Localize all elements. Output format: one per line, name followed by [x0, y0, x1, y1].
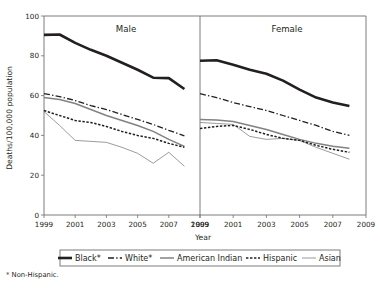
mortality-line-chart: Deaths/100,000 population 02040608010019… — [0, 0, 380, 293]
x-tick-label: 2005 — [290, 220, 308, 229]
legend-label: Asian — [319, 254, 341, 263]
legend-label: White* — [125, 254, 152, 263]
panel-title-female: Female — [271, 24, 302, 34]
legend-item-hispanic[interactable]: Hispanic — [246, 254, 297, 263]
y-tick-label: 100 — [25, 12, 39, 21]
legend-label: American Indian — [177, 254, 242, 263]
legend-item-asian[interactable]: Asian — [302, 254, 341, 263]
y-tick-label: 60 — [30, 91, 40, 100]
plot-frame — [44, 16, 366, 215]
x-tick-label: 1999 — [191, 220, 210, 229]
x-tick-label: 2007 — [160, 220, 178, 229]
x-axis-title: Year — [194, 233, 212, 242]
series-line-asian-male — [44, 112, 184, 167]
series-line-black-male — [44, 35, 184, 90]
series-line-asian-female — [200, 122, 349, 159]
x-tick-label: 2003 — [257, 220, 275, 229]
y-tick-label: 40 — [30, 131, 40, 140]
footnote: * Non-Hispanic. — [6, 271, 59, 279]
y-axis-title: Deaths/100,000 population — [5, 66, 14, 170]
legend-item-american-indian[interactable]: American Indian — [160, 254, 242, 263]
series-line-black-female — [200, 60, 349, 106]
x-tick-label: 1999 — [35, 220, 54, 229]
y-tick-label: 0 — [34, 211, 39, 220]
x-tick-label: 2009 — [357, 220, 376, 229]
y-tick-label: 20 — [30, 171, 40, 180]
y-tick-label: 80 — [30, 51, 40, 60]
figure-container: Deaths/100,000 population 02040608010019… — [0, 0, 380, 293]
legend-label: Black* — [75, 254, 101, 263]
legend-label: Hispanic — [263, 254, 297, 263]
series-line-american-indian-male — [44, 98, 184, 147]
series-line-hispanic-male — [44, 111, 184, 148]
x-tick-label: 2001 — [66, 220, 84, 229]
chart-legend: Black*White*American IndianHispanicAsian — [58, 250, 341, 266]
x-tick-label: 2007 — [324, 220, 342, 229]
series-layer — [44, 35, 349, 167]
x-tick-label: 2003 — [97, 220, 115, 229]
legend-item-white[interactable]: White* — [108, 254, 152, 263]
x-tick-label: 2001 — [224, 220, 242, 229]
legend-item-black[interactable]: Black* — [58, 254, 101, 263]
x-tick-label: 2005 — [128, 220, 146, 229]
panel-title-male: Male — [116, 24, 136, 34]
panel-titles-layer: MaleFemale — [116, 24, 303, 34]
